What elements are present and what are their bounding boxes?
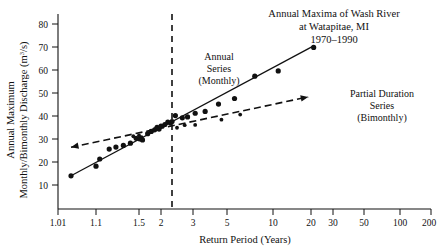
data-point xyxy=(121,143,126,148)
y-axis-ticks: 80 70 60 50 40 30 20 10 xyxy=(39,20,59,191)
chart-title-line-1: Annual Maxima of Wash River xyxy=(268,8,400,19)
data-point xyxy=(173,113,178,118)
x-tick-label-20: 20 xyxy=(306,218,316,228)
x-tick-label-1.1: 1.1 xyxy=(90,218,102,228)
y-tick-label-30: 30 xyxy=(39,135,49,145)
x-tick-label-30: 30 xyxy=(328,218,338,228)
y-tick-label-60: 60 xyxy=(39,66,49,76)
x-tick-label-10: 10 xyxy=(268,218,278,228)
annual-series-label: Annual Series (Monthly) xyxy=(198,51,239,87)
y-tick-label-50: 50 xyxy=(39,89,49,99)
data-point xyxy=(276,68,281,73)
data-point xyxy=(193,111,198,116)
annual-series-label-line-2: Series xyxy=(207,63,232,74)
x-tick-label-5: 5 xyxy=(225,218,230,228)
data-point xyxy=(203,109,208,114)
data-point xyxy=(113,144,118,149)
data-point xyxy=(193,123,197,127)
data-point xyxy=(93,164,98,169)
x-tick-label-2: 2 xyxy=(159,218,164,228)
data-point xyxy=(161,125,165,129)
y-axis-label-line-2: Monthly/Bimonthly Discharge (m3/s) xyxy=(18,41,30,199)
data-point xyxy=(175,126,179,130)
x-tick-label-1.01: 1.01 xyxy=(50,218,67,228)
data-point xyxy=(220,118,224,122)
x-tick-label-3: 3 xyxy=(191,218,196,228)
chart-title-line-3: 1970–1990 xyxy=(310,34,357,45)
x-axis-ticks: 1.01 1.1 1.5 2 3 5 10 20 30 50 100 200 xyxy=(50,209,437,228)
data-point xyxy=(107,147,112,152)
data-point xyxy=(97,156,102,161)
data-point xyxy=(154,127,158,131)
data-point xyxy=(131,134,135,138)
data-point xyxy=(185,114,190,119)
partial-duration-left-arrowhead xyxy=(71,143,79,149)
data-point xyxy=(183,123,187,127)
y-tick-label-20: 20 xyxy=(39,158,49,168)
x-axis-label: Return Period (Years) xyxy=(199,234,291,246)
data-point xyxy=(140,135,144,139)
partial-duration-right-arrowhead xyxy=(300,95,308,101)
annual-series-fit-line xyxy=(71,46,314,176)
chart-title: Annual Maxima of Wash River at Watapitae… xyxy=(268,8,400,45)
y-tick-label-40: 40 xyxy=(39,112,49,122)
partial-duration-label-line-2: Series xyxy=(370,100,395,111)
data-point xyxy=(128,141,133,146)
data-point xyxy=(232,96,237,101)
partial-duration-series-fit-line xyxy=(71,97,308,147)
y-tick-label-70: 70 xyxy=(39,43,49,53)
x-tick-label-50: 50 xyxy=(359,218,369,228)
data-point xyxy=(252,74,257,79)
partial-duration-label-line-1: Partial Duration xyxy=(350,88,414,99)
data-point xyxy=(238,113,242,117)
y-tick-label-10: 10 xyxy=(39,181,49,191)
annual-series-label-line-1: Annual xyxy=(204,51,234,62)
data-point xyxy=(168,122,172,126)
annual-series-label-line-3: (Monthly) xyxy=(198,75,239,87)
chart-figure: Annual Maxima of Wash River at Watapitae… xyxy=(0,0,439,252)
x-tick-label-100: 100 xyxy=(393,218,408,228)
data-point xyxy=(68,173,73,178)
partial-duration-series-label: Partial Duration Series (Bimonthly) xyxy=(350,88,414,124)
y-tick-label-80: 80 xyxy=(39,20,49,30)
data-point xyxy=(180,115,185,120)
y-axis-label-line-1: Annual Maximum xyxy=(5,81,16,158)
partial-duration-label-line-3: (Bimonthly) xyxy=(357,112,406,124)
chart-svg: Annual Maxima of Wash River at Watapitae… xyxy=(0,0,439,252)
data-point xyxy=(311,45,316,50)
x-tick-label-200: 200 xyxy=(422,218,437,228)
x-tick-label-1.5: 1.5 xyxy=(133,218,145,228)
y-axis-label: Annual Maximum Monthly/Bimonthly Dischar… xyxy=(5,41,30,199)
data-point xyxy=(216,101,221,106)
chart-title-line-2: at Watapitae, MI xyxy=(299,21,369,32)
